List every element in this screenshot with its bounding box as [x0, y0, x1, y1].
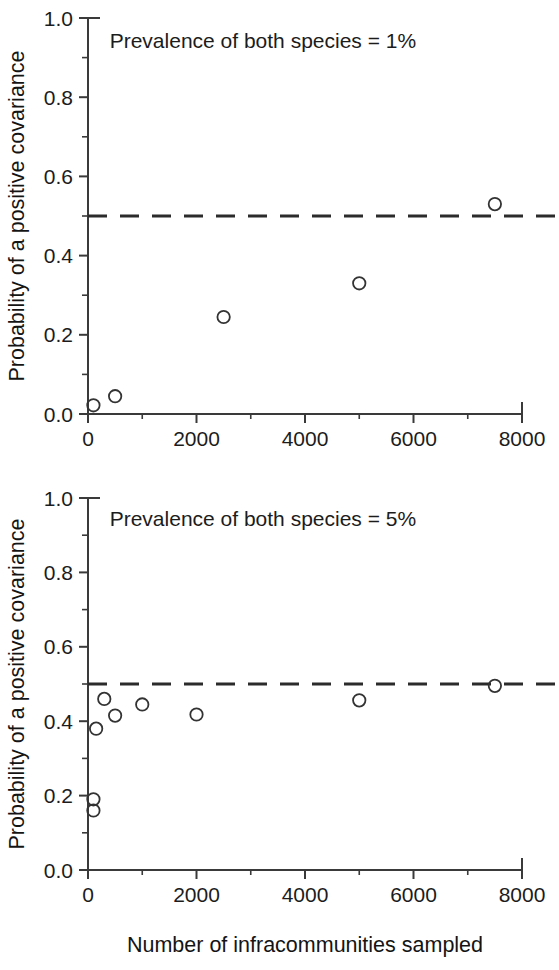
data-point-marker [353, 277, 365, 289]
data-point-marker [217, 311, 229, 323]
data-series [87, 680, 501, 817]
data-point-marker [90, 722, 102, 734]
scatter-plot-top: 0.00.20.40.60.81.002000400060008000Preva… [0, 0, 559, 485]
data-point-marker [87, 399, 99, 411]
y-tick-label: 0.6 [44, 635, 73, 658]
x-tick-label: 0 [82, 883, 94, 906]
panel-prevalence-1pct: 0.00.20.40.60.81.002000400060008000Preva… [0, 0, 559, 485]
x-tick-label: 4000 [282, 427, 329, 450]
y-tick-label: 0.6 [44, 165, 73, 188]
y-tick-label: 0.2 [44, 784, 73, 807]
x-tick-label: 6000 [390, 883, 437, 906]
y-tick-label: 0.8 [44, 561, 73, 584]
x-tick-label: 2000 [173, 427, 220, 450]
x-tick-label: 8000 [499, 427, 546, 450]
data-point-marker [353, 694, 365, 706]
y-tick-label: 0.0 [44, 403, 73, 426]
data-point-marker [489, 680, 501, 692]
x-tick-label: 8000 [499, 883, 546, 906]
data-point-marker [136, 698, 148, 710]
x-axis-title: Number of infracommunities sampled [127, 933, 483, 957]
panel-prevalence-5pct: 0.00.20.40.60.81.002000400060008000Preva… [0, 460, 559, 970]
y-tick-label: 0.8 [44, 86, 73, 109]
panel-annotation: Prevalence of both species = 1% [110, 29, 416, 52]
data-point-marker [489, 198, 501, 210]
x-tick-label: 0 [82, 427, 94, 450]
y-tick-label: 0.0 [44, 859, 73, 882]
y-tick-label: 0.4 [44, 244, 74, 267]
x-tick-label: 2000 [173, 883, 220, 906]
panel-annotation: Prevalence of both species = 5% [110, 507, 416, 530]
figure-root: 0.00.20.40.60.81.002000400060008000Preva… [0, 0, 559, 970]
data-point-marker [190, 708, 202, 720]
data-point-marker [109, 390, 121, 402]
scatter-plot-bottom: 0.00.20.40.60.81.002000400060008000Preva… [0, 460, 559, 970]
x-tick-label: 6000 [390, 427, 437, 450]
y-axis-title: Probability of a positive covariance [5, 50, 29, 381]
y-axis-title: Probability of a positive covariance [5, 518, 29, 849]
y-tick-label: 0.4 [44, 710, 74, 733]
data-point-marker [98, 693, 110, 705]
data-series [87, 198, 501, 412]
y-tick-label: 0.2 [44, 323, 73, 346]
data-point-marker [109, 709, 121, 721]
y-tick-label: 1.0 [44, 487, 73, 510]
y-tick-label: 1.0 [44, 7, 73, 30]
x-tick-label: 4000 [282, 883, 329, 906]
